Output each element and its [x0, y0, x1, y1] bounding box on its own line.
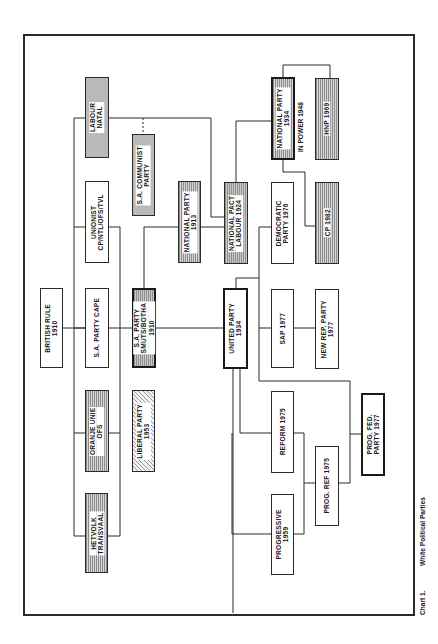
- node-hetvolk: HETVOLKTRANSVAAL: [85, 493, 108, 573]
- diagram-frame: [23, 34, 415, 616]
- node-democratic-party: DEMOCRATICPARTY 1976: [271, 182, 294, 264]
- node-label: NEW REP. PARTY1977: [320, 300, 335, 358]
- node-reform-1975: REFORM 1975: [271, 391, 294, 473]
- node-sa-communist-party: S.A. COMMUNISTPARTY: [132, 134, 155, 216]
- node-label: S.A. COMMUNISTPARTY: [136, 145, 151, 205]
- node-cp-1982: CP 1982: [315, 182, 339, 264]
- node-label: HNP 1969: [323, 102, 330, 136]
- node-national-pact-labour: NATIONAL PACTLABOUR 1924: [224, 182, 248, 264]
- node-oranje-unie: ORANJE UNIEOFS: [85, 390, 109, 472]
- node-label: HETVOLKTRANSVAAL: [89, 511, 104, 555]
- node-label: PROG. REF 1975: [323, 458, 330, 514]
- node-label: SAP 1977: [279, 313, 286, 345]
- chart-caption-label: Chart 1.: [419, 590, 426, 615]
- node-label: DEMOCRATICPARTY 1976: [275, 200, 290, 246]
- node-label: UNITED PARTY1934: [228, 303, 243, 354]
- node-sa-party-cape: S.A. PARTY CAPE: [85, 288, 109, 368]
- node-label: PROGRESSIVE1959: [275, 509, 290, 559]
- node-label: BRITISH RULE1910: [44, 304, 59, 353]
- node-prog-ref-1975: PROG. REF 1975: [315, 446, 339, 526]
- node-label: S.A. PARTYSMUTS/BOTHA1910: [133, 302, 155, 355]
- node-label: NATIONAL PACTLABOUR 1924: [229, 194, 244, 251]
- node-liberal-party: LIBERAL PARTY1953: [132, 390, 155, 472]
- node-prog-fed-party: PROG. FED.PARTY 1977: [361, 393, 385, 476]
- node-british-rule: BRITISH RULE1910: [40, 288, 63, 368]
- node-sa-party-smuts-botha: S.A. PARTYSMUTS/BOTHA1910: [132, 288, 156, 368]
- node-label: REFORM 1975: [279, 408, 286, 455]
- node-label: NATIONAL PARTY1934: [276, 88, 291, 150]
- in-power-note: IN POWER 1948: [297, 102, 304, 152]
- diagram-canvas: BRITISH RULE1910 LABOURNATAL UNIONISTCP/…: [0, 0, 438, 644]
- node-labour-natal: LABOURNATAL: [85, 77, 109, 158]
- node-label: CP 1982: [323, 209, 330, 238]
- node-label: LIBERAL PARTY1953: [136, 403, 151, 460]
- node-label: NATIONAL PARTY1913: [182, 191, 197, 253]
- node-new-rep-party: NEW REP. PARTY1977: [315, 289, 339, 369]
- node-unionist: UNIONISTCP/NTL/OFS/TVL: [85, 181, 109, 263]
- chart-caption-title: White Political Parties: [419, 497, 426, 566]
- node-national-party-1934: NATIONAL PARTY1934: [271, 77, 295, 160]
- node-label: ORANJE UNIEOFS: [90, 406, 105, 455]
- node-progressive-1959: PROGRESSIVE1959: [271, 494, 294, 575]
- node-label: S.A. PARTY CAPE: [93, 298, 100, 358]
- node-national-party-1913: NATIONAL PARTY1913: [178, 181, 201, 263]
- node-sap-1977: SAP 1977: [271, 289, 294, 368]
- node-united-party: UNITED PARTY1934: [223, 288, 248, 369]
- node-label: UNIONISTCP/NTL/OFS/TVL: [90, 194, 105, 250]
- node-hnp-1969: HNP 1969: [315, 78, 339, 160]
- node-label: LABOURNATAL: [90, 102, 105, 133]
- node-label: PROG. FED.PARTY 1977: [366, 414, 381, 454]
